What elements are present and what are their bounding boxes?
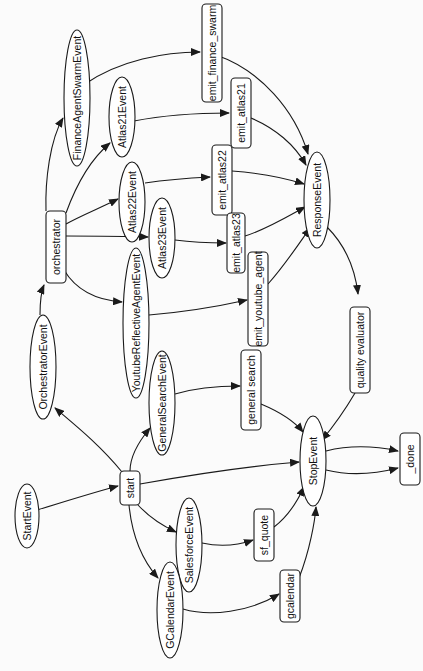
edge-general-search-to-stopevent [261,404,303,432]
node-gcalendar[interactable]: gcalendar [280,570,300,622]
edge-start-to-orchestratorevent [55,408,122,472]
node-atlas21event[interactable]: Atlas21Event [109,77,135,157]
node-label: emit_finance_swarm [206,5,218,102]
node-orchestratorevent[interactable]: OrchestratorEvent [30,315,56,419]
edge-orchestrator-to-financeagentswarmevent [46,118,63,211]
node-label: _done [404,444,416,474]
node-label: Atlas22Event [126,171,138,233]
node-sf-quote[interactable]: sf_quote [254,509,274,561]
node-label: GCalendarEvent [164,571,176,649]
node-youtubereflectiveagentevent[interactable]: YoutubeReflectiveAgentEvent [123,248,149,398]
node-done[interactable]: _done [400,433,420,485]
node-atlas23event[interactable]: Atlas23Event [149,198,175,278]
edge-start-to-salesforceevent [138,505,176,532]
edge-emit-finance-swarm-to-responseevent [216,55,308,154]
node-orchestrator[interactable]: orchestrator [46,211,66,283]
edge-financeagentswarmevent-to-emit-finance-swarm [85,52,200,84]
node-label: gcalendar [284,572,296,619]
node-label: emit_youtube_agent [252,251,264,346]
node-label: ResponseEvent [311,163,323,237]
node-label: GeneralSearchEvent [156,354,168,452]
edge-stopevent-to-done [326,468,398,474]
node-emit-atlas21[interactable]: emit_atlas21 [231,78,251,148]
node-startevent[interactable]: StartEvent [15,484,39,548]
node-label: FinanceAgentSwarmEvent [71,36,83,160]
node-financeagentswarmevent[interactable]: FinanceAgentSwarmEvent [64,30,90,166]
node-label: StartEvent [21,491,33,540]
node-label: SalesforceEvent [183,507,195,584]
node-gcalendarevent[interactable]: GCalendarEvent [157,562,183,658]
node-label: start [124,478,136,499]
edge-start-to-generalsearchevent [130,428,150,471]
edge-orchestratorevent-to-orchestrator [40,285,44,315]
node-generalsearchevent[interactable]: GeneralSearchEvent [149,351,175,455]
node-label: orchestrator [50,218,62,275]
node-emit-youtube-agent[interactable]: emit_youtube_agent [248,251,268,346]
node-label: OrchestratorEvent [37,324,49,409]
node-label: quality evaluator [354,311,366,388]
edge-youtubereflectiveagentevent-to-emit-youtube-agent [149,300,247,315]
edge-generalsearchevent-to-general-search [175,386,240,394]
node-label: emit_atlas23 [230,213,242,273]
edge-sf-quote-to-stopevent [274,487,304,527]
edge-stopevent-to-done [326,447,398,451]
edge-atlas21event-to-emit-atlas21 [134,113,229,121]
node-label: emit_atlas21 [235,83,247,143]
edge-orchestrator-to-youtubereflectiveagentevent [64,270,122,302]
edges-layer [37,52,398,613]
node-start[interactable]: start [120,471,140,505]
node-label: general search [245,355,257,425]
workflow-diagram: StartEventstartOrchestratorEventorchestr… [0,0,423,671]
edge-atlas22event-to-emit-atlas22 [145,177,210,183]
node-label: Atlas21Event [116,86,128,148]
node-quality-evaluator[interactable]: quality evaluator [350,307,370,393]
edge-start-to-gcalendarevent [129,505,158,578]
node-general-search[interactable]: general search [241,350,261,430]
edge-emit-atlas23-to-responseevent [245,207,305,236]
edge-salesforceevent-to-sf-quote [202,540,253,545]
node-label: YoutubeReflectiveAgentEvent [130,254,142,393]
edge-gcalendar-to-stopevent [299,507,316,578]
edge-atlas23event-to-emit-atlas23 [175,240,226,243]
edge-startevent-to-start [37,486,118,510]
node-label: StopEvent [307,437,319,486]
edge-responseevent-to-quality-evaluator [327,227,358,294]
edge-emit-atlas22-to-responseevent [232,171,304,184]
node-emit-atlas23[interactable]: emit_atlas23 [227,213,245,273]
edge-orchestrator-to-atlas22event [66,199,118,224]
node-responseevent[interactable]: ResponseEvent [304,152,330,248]
node-emit-atlas22[interactable]: emit_atlas22 [212,145,232,215]
edge-quality-evaluator-to-stopevent [322,393,355,440]
edge-start-to-stopevent [140,462,299,484]
node-atlas22event[interactable]: Atlas22Event [119,162,145,242]
node-label: emit_atlas22 [216,150,228,210]
edge-gcalendarevent-to-gcalendar [183,594,279,613]
edge-emit-youtube-agent-to-responseevent [268,228,310,284]
node-label: sf_quote [258,515,270,555]
node-label: Atlas23Event [156,207,168,269]
edge-emit-atlas21-to-responseevent [251,118,306,165]
node-emit-finance-swarm[interactable]: emit_finance_swarm [202,4,222,102]
nodes-layer: StartEventstartOrchestratorEventorchestr… [15,4,420,658]
node-stopevent[interactable]: StopEvent [300,416,326,506]
